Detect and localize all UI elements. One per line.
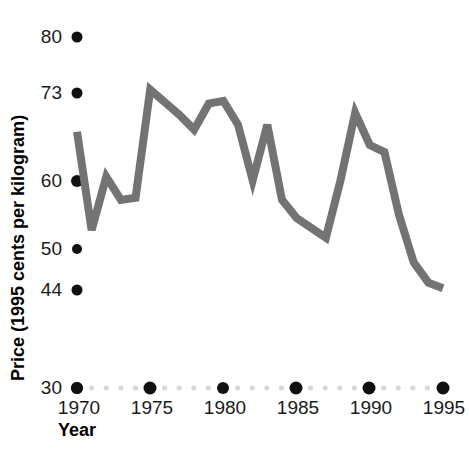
y-tick-label-80: 80 xyxy=(41,26,62,47)
x-tick-label-1980: 1980 xyxy=(204,397,246,418)
y-tick-label-50: 50 xyxy=(41,238,62,259)
x-tick-label-1985: 1985 xyxy=(277,397,319,418)
chart-background xyxy=(0,0,469,462)
x-tick-dot-1990 xyxy=(363,382,376,395)
x-tick-dot-1980 xyxy=(217,382,229,394)
chart-figure: 80 73 60 50 44 30 xyxy=(0,0,469,462)
y-tick-dot-73 xyxy=(72,88,83,99)
y-tick-dot-80 xyxy=(72,32,83,43)
x-axis-title: Year xyxy=(58,420,96,440)
line-chart-canvas: 80 73 60 50 44 30 xyxy=(0,0,469,462)
x-tick-label-1970: 1970 xyxy=(58,397,100,418)
x-tick-dot-1975 xyxy=(144,382,157,395)
x-tick-label-1995: 1995 xyxy=(423,397,465,418)
x-tick-label-1990: 1990 xyxy=(350,397,392,418)
y-tick-dot-44 xyxy=(72,285,83,296)
x-tick-label-1975: 1975 xyxy=(131,397,173,418)
y-tick-label-73: 73 xyxy=(41,82,62,103)
y-axis-title: Price (1995 cents per kilogram) xyxy=(8,115,28,381)
x-tick-dot-1995 xyxy=(437,382,450,395)
x-tick-dot-1985 xyxy=(290,382,303,395)
y-tick-label-60: 60 xyxy=(41,170,62,191)
y-tick-label-30: 30 xyxy=(41,377,62,398)
x-tick-dot-1970 xyxy=(71,382,83,394)
y-tick-dot-50 xyxy=(72,244,82,254)
y-tick-label-44: 44 xyxy=(41,279,63,300)
